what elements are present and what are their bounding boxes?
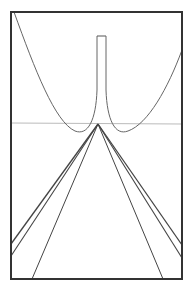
diagram-canvas [0, 0, 192, 296]
background [0, 0, 192, 296]
